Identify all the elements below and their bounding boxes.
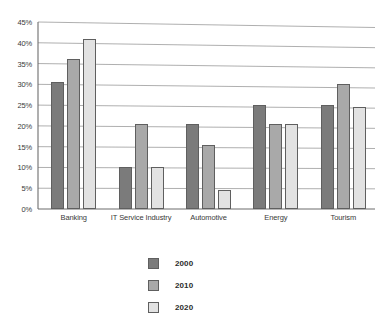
y-axis-tick: 20%: [18, 121, 32, 130]
y-axis-tick: 45%: [18, 18, 32, 27]
legend-label: 2020: [175, 303, 193, 312]
bar-group: [51, 22, 96, 209]
bar-group: [186, 22, 231, 209]
legend-swatch: [148, 302, 159, 313]
legend-swatch: [148, 258, 159, 269]
bar[interactable]: [253, 105, 266, 209]
bar-group: [253, 22, 298, 209]
y-axis-tick: 35%: [18, 59, 32, 68]
bar[interactable]: [119, 167, 132, 209]
x-axis-tick: Automotive: [190, 213, 227, 222]
bar[interactable]: [321, 105, 334, 209]
y-axis-labels: 0%5%10%15%20%25%30%35%40%45%: [0, 22, 36, 209]
bar[interactable]: [218, 190, 231, 209]
x-axis-tick: Banking: [60, 213, 86, 222]
x-axis-tick: Energy: [264, 213, 287, 222]
y-axis-tick: 10%: [18, 163, 32, 172]
bar[interactable]: [135, 124, 148, 209]
bar[interactable]: [202, 145, 215, 209]
y-axis-tick: 5%: [22, 184, 32, 193]
bar[interactable]: [285, 124, 298, 209]
bar[interactable]: [51, 82, 64, 209]
bar[interactable]: [83, 39, 96, 209]
y-axis-tick: 40%: [18, 38, 32, 47]
plot-area: [38, 22, 375, 209]
bar[interactable]: [67, 59, 80, 209]
bars-layer: [38, 22, 375, 209]
legend-swatch: [148, 280, 159, 291]
y-axis-tick: 25%: [18, 101, 32, 110]
bar[interactable]: [353, 107, 366, 209]
bar-group: [119, 22, 164, 209]
bar[interactable]: [269, 124, 282, 209]
bar[interactable]: [337, 84, 350, 209]
y-axis-tick: 0%: [22, 205, 32, 214]
legend-label: 2010: [175, 281, 193, 290]
x-axis-tick: Tourism: [331, 213, 357, 222]
legend-item[interactable]: 2000: [148, 252, 268, 274]
x-axis-tick: IT Service Industry: [111, 213, 171, 222]
legend-label: 2000: [175, 259, 193, 268]
legend-item[interactable]: 2020: [148, 296, 268, 318]
y-axis-tick: 30%: [18, 80, 32, 89]
bar[interactable]: [151, 167, 164, 209]
y-axis-tick: 15%: [18, 142, 32, 151]
x-axis-labels: BankingIT Service IndustryAutomotiveEner…: [38, 213, 375, 231]
bar-group: [321, 22, 366, 209]
legend-item[interactable]: 2010: [148, 274, 268, 296]
bar[interactable]: [186, 124, 199, 209]
bar-chart: 0%5%10%15%20%25%30%35%40%45% BankingIT S…: [0, 0, 384, 323]
chart-legend: 200020102020: [148, 252, 268, 318]
